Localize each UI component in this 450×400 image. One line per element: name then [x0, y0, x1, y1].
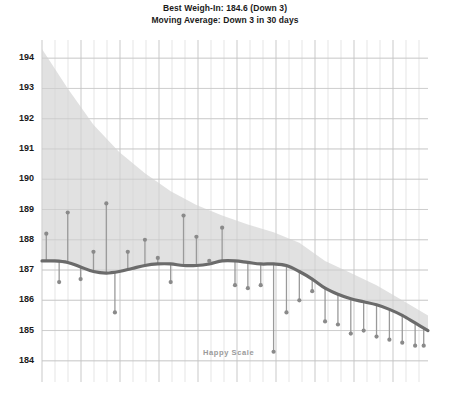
- weight-chart: Best Weigh-In: 184.6 (Down 3) Moving Ave…: [0, 0, 450, 400]
- y-axis-tick-label: 188: [8, 235, 34, 244]
- y-axis-tick-label: 186: [8, 295, 34, 304]
- y-axis-tick-label: 184: [8, 356, 34, 365]
- y-axis-tick-label: 194: [8, 53, 34, 62]
- plot-area: 184185186187188189190191192193194 Happy …: [0, 0, 450, 400]
- y-axis-tick-label: 189: [8, 205, 34, 214]
- y-axis-tick-label: 193: [8, 83, 34, 92]
- happy-scale-watermark: Happy Scale: [203, 348, 254, 357]
- y-axis-tick-label: 191: [8, 144, 34, 153]
- y-axis-tick-label: 185: [8, 326, 34, 335]
- plot-svg: [0, 0, 450, 400]
- y-axis-tick-label: 190: [8, 174, 34, 183]
- y-axis-tick-label: 192: [8, 114, 34, 123]
- y-axis-tick-label: 187: [8, 265, 34, 274]
